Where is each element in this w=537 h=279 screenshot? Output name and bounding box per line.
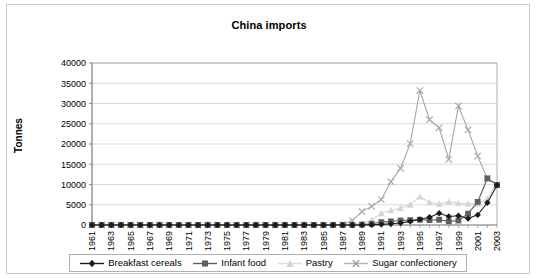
x-tick-label: 2001 [473, 231, 483, 251]
y-tick-label: 20000 [61, 139, 86, 149]
x-tick-label: 1971 [184, 231, 194, 251]
x-tick-label: 1965 [126, 231, 136, 251]
y-tick-label: 30000 [61, 99, 86, 109]
y-tick-label: 35000 [61, 79, 86, 89]
legend-label: Breakfast cereals [108, 258, 181, 268]
y-tick-label: 10000 [61, 180, 86, 190]
x-tick-label: 1967 [145, 231, 155, 251]
x-tick-label: 1983 [299, 231, 309, 251]
x-tick-label: 1991 [376, 231, 386, 251]
data-point [475, 199, 481, 205]
data-point [436, 217, 442, 223]
x-tick-label: 1973 [203, 231, 213, 251]
y-tick-label: 0 [81, 220, 86, 230]
legend-marker-square-icon [192, 258, 218, 269]
x-tick-label: 1997 [434, 231, 444, 251]
x-tick-label: 1981 [280, 231, 290, 251]
x-tick-label: 1987 [338, 231, 348, 251]
x-tick-label: 2003 [492, 231, 502, 251]
x-tick-label: 1961 [87, 231, 97, 251]
y-tick-label: 5000 [66, 200, 86, 210]
chart-plot: 0500010000150002000025000300003500040000… [7, 5, 531, 275]
x-tick-label: 1989 [357, 231, 367, 251]
legend-marker-triangle-icon [277, 258, 303, 269]
y-tick-label: 40000 [61, 58, 86, 68]
y-tick-label: 25000 [61, 119, 86, 129]
y-tick-label: 15000 [61, 160, 86, 170]
legend-label: Sugar confectionery [372, 258, 457, 268]
x-tick-label: 1977 [241, 231, 251, 251]
chart-card: China imports Tonnes 0500010000150002000… [6, 4, 530, 274]
legend-item-infant-food[interactable]: Infant food [192, 258, 266, 269]
data-point [484, 176, 490, 182]
x-tick-label: 1995 [415, 231, 425, 251]
x-tick-label: 1985 [319, 231, 329, 251]
legend-item-sugar-confectionery[interactable]: Sugar confectionery [343, 258, 457, 269]
x-tick-label: 1969 [164, 231, 174, 251]
legend-item-pastry[interactable]: Pastry [277, 258, 333, 269]
legend-label: Infant food [221, 258, 266, 268]
x-tick-label: 1963 [106, 231, 116, 251]
legend-label: Pastry [306, 258, 333, 268]
x-tick-label: 1993 [396, 231, 406, 251]
x-tick-label: 1975 [222, 231, 232, 251]
legend-item-breakfast-cereals[interactable]: Breakfast cereals [79, 258, 181, 269]
legend-marker-diamond-icon [79, 258, 105, 269]
legend-marker-x-icon [343, 258, 369, 269]
x-tick-label: 1999 [454, 231, 464, 251]
x-tick-label: 1979 [261, 231, 271, 251]
chart-legend: Breakfast cereals Infant food Pastry Sug… [69, 254, 467, 272]
